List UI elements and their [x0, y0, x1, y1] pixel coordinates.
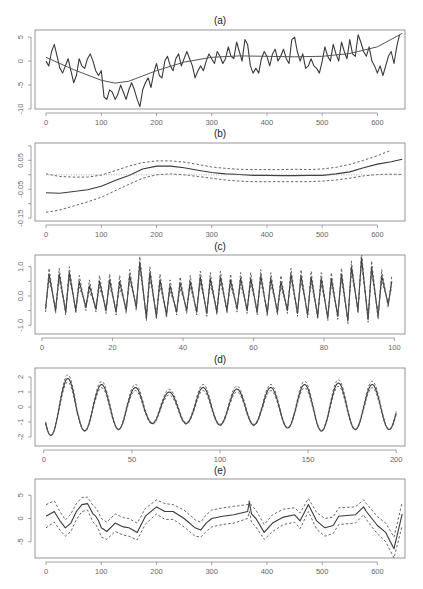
x-tick-label: 100 — [214, 455, 227, 464]
x-tick-label: 400 — [261, 567, 274, 576]
upper-line — [46, 375, 397, 436]
y-tick-label: 5 — [16, 35, 25, 39]
y-tick-label: 1.0 — [16, 261, 25, 271]
x-tick-label: 0 — [44, 118, 48, 127]
x-tick-label: 150 — [302, 455, 315, 464]
panel-title: (b) — [214, 128, 226, 139]
plot-area — [46, 375, 397, 436]
x-tick-label: 0 — [44, 567, 48, 576]
y-tick-label: -1 — [16, 419, 25, 426]
estimate-line — [46, 502, 402, 549]
x-tick-label: 20 — [108, 343, 116, 352]
x-tick-label: 300 — [205, 230, 218, 239]
x-tick-label: 500 — [316, 230, 329, 239]
figure: (a) 0100200300400500600-10-505 (b) 01002… — [0, 0, 423, 589]
plot-area — [46, 150, 402, 212]
observed-line — [46, 35, 400, 107]
y-tick-label: 1 — [16, 390, 25, 394]
lower-line — [46, 510, 402, 558]
upper-line — [46, 252, 392, 324]
panel-title: (a) — [214, 15, 226, 26]
panel-d: (d) 050100150200-2-1012 — [16, 354, 405, 464]
plot-area — [46, 252, 392, 324]
panel-c: (c) 020406080100-1.00.01.0 — [16, 241, 405, 352]
y-tick-label: 0 — [16, 405, 25, 409]
x-tick-label: 200 — [150, 567, 163, 576]
panel-e: (e) 0100200300400500600-505 — [16, 465, 405, 576]
y-tick-label: 0 — [16, 516, 25, 520]
plot-area — [46, 497, 402, 558]
x-tick-label: 50 — [128, 455, 136, 464]
x-tick-label: 300 — [205, 567, 218, 576]
lower-line — [46, 174, 402, 212]
y-tick-label: 0.05 — [16, 153, 25, 168]
panel-title: (d) — [214, 354, 226, 365]
y-tick-label: 0.0 — [16, 291, 25, 301]
x-tick-label: 600 — [371, 230, 384, 239]
x-tick-label: 60 — [249, 343, 257, 352]
y-tick-label: -5 — [16, 538, 25, 545]
x-tick-label: 80 — [320, 343, 328, 352]
panel-a: (a) 0100200300400500600-10-505 — [16, 15, 405, 127]
smooth-line — [46, 33, 402, 83]
x-tick-label: 500 — [316, 118, 329, 127]
upper-line — [46, 497, 402, 537]
plot-frame — [35, 368, 405, 446]
panel-b: (b) 0100200300400500600-0.15-0.050.05 — [16, 128, 405, 239]
x-tick-label: 400 — [261, 230, 274, 239]
x-tick-label: 600 — [371, 118, 384, 127]
x-tick-label: 600 — [371, 567, 384, 576]
y-tick-label: -5 — [16, 82, 25, 89]
x-tick-label: 200 — [150, 230, 163, 239]
x-tick-label: 100 — [388, 343, 401, 352]
x-tick-label: 0 — [42, 455, 46, 464]
x-tick-label: 0 — [40, 343, 44, 352]
panel-title: (e) — [214, 465, 226, 476]
plot-frame — [35, 143, 405, 221]
x-tick-label: 400 — [261, 118, 274, 127]
y-tick-label: 5 — [16, 493, 25, 497]
plot-frame — [35, 479, 405, 558]
plot-area — [46, 33, 402, 106]
x-tick-label: 100 — [95, 230, 108, 239]
x-tick-label: 200 — [150, 118, 163, 127]
y-tick-label: 0 — [16, 59, 25, 63]
y-tick-label: 2 — [16, 375, 25, 379]
y-tick-label: -10 — [16, 104, 25, 115]
y-tick-label: -0.05 — [16, 181, 25, 198]
x-tick-label: 0 — [44, 230, 48, 239]
panel-title: (c) — [214, 241, 226, 252]
x-tick-label: 200 — [390, 455, 403, 464]
y-tick-label: -0.15 — [16, 210, 25, 227]
x-tick-label: 100 — [95, 118, 108, 127]
x-tick-label: 100 — [95, 567, 108, 576]
y-tick-label: -2 — [16, 434, 25, 441]
x-tick-label: 500 — [316, 567, 329, 576]
y-tick-label: -1.0 — [16, 319, 25, 332]
x-tick-label: 300 — [205, 118, 218, 127]
x-tick-label: 40 — [179, 343, 187, 352]
